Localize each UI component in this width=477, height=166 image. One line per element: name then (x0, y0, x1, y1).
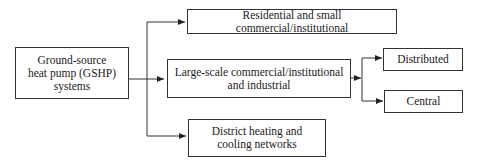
residential-box: Residential and small commercial/institu… (187, 9, 397, 34)
large-scale-label-line: and industrial (175, 79, 344, 92)
root-label-line: Ground-source (28, 54, 116, 67)
root-label-line: heat pump (GSHP) (28, 67, 116, 80)
gshp-systems-box: Ground-source heat pump (GSHP) systems (15, 47, 129, 99)
distributed-box: Distributed (383, 48, 463, 71)
district-box: District heating and cooling networks (188, 119, 326, 157)
large-scale-label-line: Large-scale commercial/institutional (175, 66, 344, 79)
distributed-label: Distributed (397, 53, 449, 66)
central-box: Central (384, 90, 463, 113)
residential-label: Residential and small commercial/institu… (188, 9, 396, 35)
district-label-line: District heating and (212, 125, 303, 138)
central-label: Central (407, 95, 441, 108)
large-scale-box: Large-scale commercial/institutional and… (167, 59, 351, 98)
district-label-line: cooling networks (212, 138, 303, 151)
root-label-line: systems (28, 80, 116, 93)
